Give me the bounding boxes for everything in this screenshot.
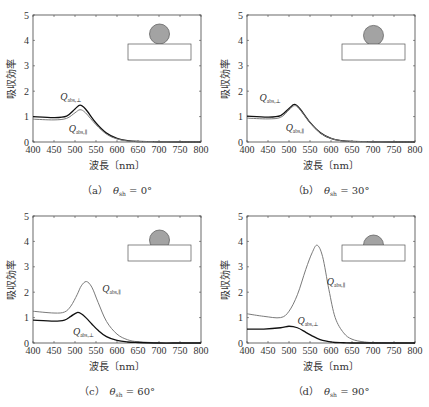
series-label: Qabs,∥: [327, 276, 345, 288]
y-tick-label: 4: [238, 236, 243, 247]
x-tick-label: 650: [345, 345, 360, 356]
y-tick-label: 1: [238, 312, 243, 323]
substrate-icon: [342, 245, 405, 261]
x-tick-label: 700: [366, 345, 381, 356]
x-tick-label: 450: [261, 345, 276, 356]
chart-svg-d: 400450500550600650700750800012345吸収効率波長〔…: [0, 0, 429, 407]
y-tick-label: 3: [238, 261, 243, 272]
x-tick-label: 500: [282, 345, 297, 356]
x-tick-label: 750: [387, 345, 402, 356]
x-tick-label: 550: [303, 345, 318, 356]
x-tick-label: 600: [324, 345, 339, 356]
y-tick-label: 5: [238, 211, 243, 222]
series-label: Qabs,⊥: [297, 315, 318, 327]
x-axis-label: 波長〔nm〕: [303, 360, 359, 372]
x-tick-label: 800: [408, 345, 423, 356]
panel-caption: （d） θsh = 90°: [293, 386, 370, 398]
y-tick-label: 0: [238, 338, 243, 349]
y-tick-label: 2: [238, 287, 243, 298]
series-line: [247, 326, 415, 343]
y-axis-label: 吸収効率: [219, 260, 231, 300]
